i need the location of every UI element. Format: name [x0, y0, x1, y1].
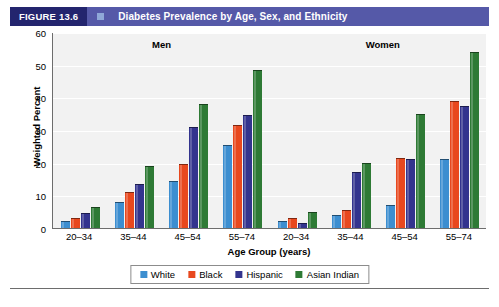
y-axis-tick-label: 50: [35, 60, 46, 71]
chart-legend: WhiteBlackHispanicAsian Indian: [130, 265, 369, 284]
square-marker-icon: [97, 13, 104, 20]
y-axis-tick-label: 10: [35, 191, 46, 202]
bar-group: [270, 33, 324, 228]
y-axis-tick-label: 30: [35, 126, 46, 137]
x-axis-tick-labels: 20–3435–4445–5455–7420–3435–4445–5455–74: [52, 231, 486, 247]
bar-hispanic: [189, 127, 198, 228]
legend-item: Hispanic: [235, 269, 282, 280]
bar-white: [169, 181, 178, 228]
bar-group: [107, 33, 161, 228]
x-axis-tick-label: 35–44: [120, 231, 146, 242]
y-axis-tick-label: 0: [41, 224, 46, 235]
figure-header: FIGURE 13.6 Diabetes Prevalence by Age, …: [10, 7, 489, 26]
bar-white: [332, 215, 341, 228]
y-axis-tick-label: 60: [35, 28, 46, 39]
bar-hispanic: [406, 159, 415, 228]
y-axis-ticks: 0102030405060: [24, 33, 50, 229]
bar-white: [115, 202, 124, 228]
legend-item: Black: [188, 269, 222, 280]
bar-asian-indian: [199, 104, 208, 228]
legend-item: White: [140, 269, 175, 280]
bar-white: [278, 221, 287, 228]
bar-asian-indian: [308, 212, 317, 228]
bar-asian-indian: [91, 207, 100, 228]
bar-hispanic: [352, 172, 361, 228]
bar-hispanic: [81, 213, 90, 228]
bar-asian-indian: [362, 163, 371, 228]
legend-swatch-icon: [140, 271, 147, 278]
bar-black: [396, 158, 405, 228]
bar-group: [216, 33, 270, 228]
x-axis-tick-label: 45–54: [174, 231, 200, 242]
x-axis-tick-label: 55–74: [229, 231, 255, 242]
bar-black: [71, 218, 80, 228]
bar-group: [162, 33, 216, 228]
bar-black: [125, 192, 134, 228]
legend-label: Asian Indian: [307, 269, 359, 280]
x-axis-tick-label: 55–74: [446, 231, 472, 242]
bar-white: [386, 205, 395, 228]
bar-group: [324, 33, 378, 228]
x-axis-tick-label: 20–34: [66, 231, 92, 242]
bar-black: [342, 210, 351, 228]
x-axis-title: Age Group (years): [52, 246, 486, 257]
x-axis-tick-label: 45–54: [391, 231, 417, 242]
bar-hispanic: [243, 115, 252, 228]
bar-asian-indian: [145, 166, 154, 228]
legend-label: White: [151, 269, 175, 280]
bar-black: [450, 101, 459, 228]
legend-item: Asian Indian: [296, 269, 359, 280]
bar-asian-indian: [416, 114, 425, 228]
legend-label: Hispanic: [246, 269, 282, 280]
bar-black: [233, 125, 242, 228]
bar-group: [53, 33, 107, 228]
figure-title: Diabetes Prevalence by Age, Sex, and Eth…: [118, 11, 347, 22]
plot-region: Men Women: [52, 33, 486, 229]
bar-black: [288, 218, 297, 228]
bar-hispanic: [135, 184, 144, 228]
bar-hispanic: [460, 106, 469, 229]
figure-number: FIGURE 13.6: [10, 7, 87, 26]
bar-black: [179, 164, 188, 228]
bar-white: [440, 159, 449, 228]
chart-area: Weighted Percent 0102030405060 Men Women…: [10, 33, 489, 263]
bar-group: [433, 33, 487, 228]
legend-swatch-icon: [188, 271, 195, 278]
bar-group: [379, 33, 433, 228]
x-axis-tick-label: 20–34: [283, 231, 309, 242]
bar-white: [61, 221, 70, 228]
bar-hispanic: [298, 223, 307, 228]
y-axis-tick-label: 20: [35, 158, 46, 169]
legend-label: Black: [199, 269, 222, 280]
figure-container: FIGURE 13.6 Diabetes Prevalence by Age, …: [0, 0, 499, 307]
y-axis-tick-label: 40: [35, 93, 46, 104]
bar-asian-indian: [470, 52, 479, 228]
legend-swatch-icon: [235, 271, 242, 278]
footer-rule: [10, 288, 489, 289]
bar-asian-indian: [253, 70, 262, 228]
bar-white: [223, 145, 232, 228]
x-axis-tick-label: 35–44: [337, 231, 363, 242]
legend-swatch-icon: [296, 271, 303, 278]
bar-groups: [53, 33, 486, 228]
